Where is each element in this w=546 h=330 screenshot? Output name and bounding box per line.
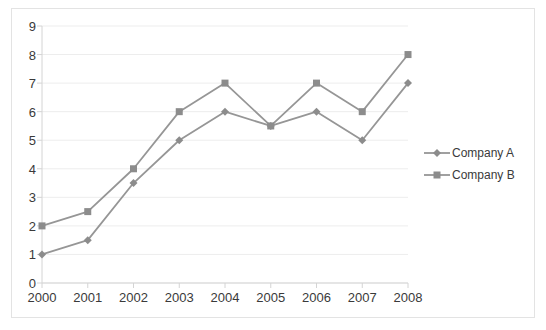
y-axis-tick-label: 6 xyxy=(10,105,36,118)
y-axis-tick-label: 9 xyxy=(10,20,36,33)
legend-item[interactable]: Company A xyxy=(424,142,530,164)
square-marker-icon xyxy=(39,222,46,229)
line-chart: 0123456789 20002001200220032004200520062… xyxy=(0,0,546,330)
data-series xyxy=(39,51,412,229)
square-marker-icon xyxy=(222,80,229,87)
legend-item[interactable]: Company B xyxy=(424,164,530,186)
y-axis-tick-label: 5 xyxy=(10,134,36,147)
legend-marker xyxy=(424,146,450,160)
diamond-marker-icon xyxy=(433,149,441,157)
legend-marker xyxy=(424,168,450,182)
square-marker-icon xyxy=(313,80,320,87)
square-marker-icon xyxy=(405,51,412,58)
y-axis-tick-label: 0 xyxy=(10,277,36,290)
x-axis: 200020012002200320042005200620072008 xyxy=(42,291,408,311)
square-marker-icon xyxy=(84,208,91,215)
square-marker-icon xyxy=(434,172,441,179)
plot-area xyxy=(42,26,408,283)
y-axis-tick-label: 7 xyxy=(10,77,36,90)
square-marker-icon xyxy=(176,108,183,115)
data-series xyxy=(38,79,412,258)
y-axis: 0123456789 xyxy=(8,26,36,283)
y-axis-tick-label: 1 xyxy=(10,248,36,261)
y-axis-tick-label: 8 xyxy=(10,48,36,61)
legend-label: Company A xyxy=(450,146,514,160)
square-marker-icon xyxy=(267,122,274,129)
square-marker-icon xyxy=(130,165,137,172)
legend-label: Company B xyxy=(450,168,515,182)
y-axis-tick-label: 3 xyxy=(10,191,36,204)
y-axis-tick-label: 2 xyxy=(10,219,36,232)
y-axis-tick-label: 4 xyxy=(10,162,36,175)
chart-legend: Company ACompany B xyxy=(424,142,530,186)
series-layer xyxy=(42,26,408,283)
x-axis-tick-label: 2008 xyxy=(381,291,435,304)
square-marker-icon xyxy=(359,108,366,115)
